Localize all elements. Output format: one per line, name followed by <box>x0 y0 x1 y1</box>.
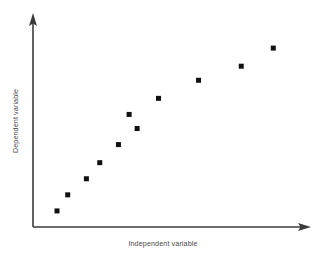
scatter-plot-figure: Independent variable Dependent variable <box>0 0 330 261</box>
data-point-marker <box>84 176 89 181</box>
data-point-marker <box>239 64 244 69</box>
data-point-marker <box>135 126 140 131</box>
data-point-marker <box>55 208 60 213</box>
data-point-marker <box>271 46 276 51</box>
data-point-marker <box>196 78 201 83</box>
data-point-marker <box>156 96 161 101</box>
data-point-marker <box>116 142 121 147</box>
plot-canvas: Independent variable Dependent variable <box>0 0 330 261</box>
data-point-marker <box>65 192 70 197</box>
data-point-marker <box>97 160 102 165</box>
data-points-group <box>55 46 276 214</box>
data-point-marker <box>127 112 132 117</box>
y-axis-label: Dependent variable <box>11 89 20 153</box>
x-axis-label: Independent variable <box>128 239 197 248</box>
